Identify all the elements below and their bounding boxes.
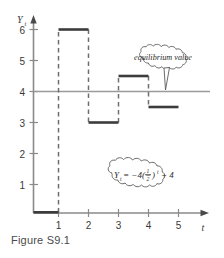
y-tick-label-4: 4 (19, 87, 25, 98)
x-axis-name: t (202, 222, 205, 233)
figure-container: 6 5 4 3 2 1 Y t 1 2 3 4 5 t (0, 0, 224, 258)
y-tick-label-5: 5 (19, 56, 25, 67)
y-axis-name: Y (17, 14, 24, 25)
x-tick-label-4: 4 (146, 220, 152, 231)
equilibrium-callout-label: equilibrium value (134, 53, 192, 62)
y-tick-label-3: 3 (19, 118, 25, 129)
equation-rhs-part2: ) (151, 170, 155, 180)
equation-fraction-denominator: 2 (147, 176, 150, 182)
axis-group (30, 15, 209, 216)
equation-rhs-part3: + 4 (161, 170, 174, 180)
x-axis-tick-labels: 1 2 3 4 5 t (56, 220, 205, 233)
y-axis-tick-labels: 6 5 4 3 2 1 (19, 25, 25, 191)
figure-caption: Figure S9.1 (11, 234, 70, 246)
step-function-plot: 6 5 4 3 2 1 Y t 1 2 3 4 5 t (0, 0, 224, 258)
equation-callout[interactable]: Y t = −4(− 1 2 ) t + 4 (108, 158, 174, 187)
x-tick-label-3: 3 (116, 220, 122, 231)
equilibrium-callout[interactable]: equilibrium value (134, 44, 192, 90)
x-tick-label-5: 5 (176, 220, 182, 231)
equation-fraction-numerator: 1 (147, 168, 150, 174)
x-tick-label-1: 1 (56, 220, 62, 231)
equilibrium-callout-pointer (164, 68, 170, 91)
y-axis-arrow-icon (30, 15, 36, 24)
y-axis-name-group: Y t (17, 14, 27, 27)
y-axis-name-subscript: t (25, 20, 27, 27)
y-tick-label-2: 2 (19, 149, 25, 160)
x-axis-arrow-icon (201, 210, 210, 216)
y-tick-label-1: 1 (19, 180, 25, 191)
x-tick-label-2: 2 (86, 220, 92, 231)
